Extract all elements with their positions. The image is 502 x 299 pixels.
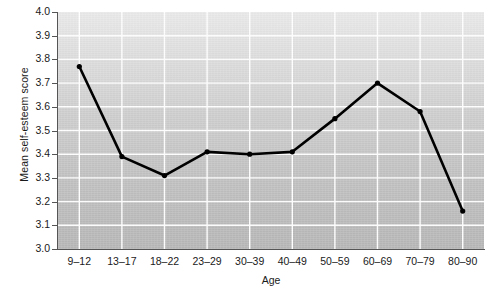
y-tick-label: 3.1 — [20, 219, 50, 230]
plot-area — [58, 12, 484, 249]
y-tick-label: 4.0 — [20, 6, 50, 17]
data-series-line — [58, 12, 484, 249]
y-tick-mark — [52, 154, 57, 155]
y-tick-mark — [52, 225, 57, 226]
x-axis-title: Age — [58, 274, 484, 286]
y-tick-label: 3.0 — [20, 243, 50, 254]
x-tick-label: 80–90 — [433, 255, 493, 267]
y-tick-mark — [52, 36, 57, 37]
y-tick-label: 3.4 — [20, 148, 50, 159]
y-tick-mark — [52, 249, 57, 250]
y-tick-mark — [52, 59, 57, 60]
y-tick-mark — [52, 131, 57, 132]
y-tick-mark — [52, 83, 57, 84]
y-tick-mark — [52, 202, 57, 203]
y-tick-mark — [52, 12, 57, 13]
y-tick-label: 3.6 — [20, 101, 50, 112]
y-tick-label: 3.8 — [20, 53, 50, 64]
y-tick-label: 3.2 — [20, 196, 50, 207]
y-tick-label: 3.5 — [20, 125, 50, 136]
x-axis-line — [57, 249, 485, 250]
y-tick-label: 3.3 — [20, 172, 50, 183]
y-tick-mark — [52, 107, 57, 108]
y-tick-mark — [52, 178, 57, 179]
chart-figure: Mean self-esteem score 3.03.13.23.33.43.… — [0, 0, 502, 299]
y-tick-label: 3.9 — [20, 30, 50, 41]
y-tick-label: 3.7 — [20, 77, 50, 88]
